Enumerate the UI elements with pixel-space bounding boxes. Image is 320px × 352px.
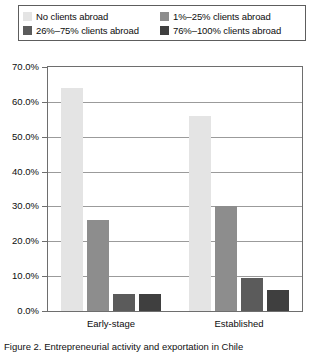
legend-entry-no-clients-abroad: No clients abroad — [23, 11, 160, 22]
bar-established-series-1 — [215, 206, 237, 311]
bar-established-series-3 — [267, 290, 289, 311]
x-category-label-1: Established — [175, 318, 303, 329]
y-tick-label-50: 50.0% — [0, 132, 39, 142]
bar-early-stage-series-3 — [139, 294, 161, 311]
legend-label-2: 26%–75% clients abroad — [36, 25, 139, 36]
x-category-label-0: Early-stage — [47, 318, 175, 329]
bar-early-stage-series-2 — [113, 294, 135, 311]
legend-label-1: 1%–25% clients abroad — [173, 11, 271, 22]
legend-label-0: No clients abroad — [36, 11, 108, 22]
legend-row-2: 26%–75% clients abroad 76%–100% clients … — [23, 23, 301, 37]
y-tick-label-30: 30.0% — [0, 201, 39, 211]
bar-established-series-0 — [189, 116, 211, 311]
legend-entry-76-100-clients-abroad: 76%–100% clients abroad — [160, 25, 281, 36]
bar-early-stage-series-1 — [87, 220, 109, 311]
legend-row-1: No clients abroad 1%–25% clients abroad — [23, 9, 301, 23]
figure-caption: Figure 2. Entrepreneurial activity and e… — [4, 341, 320, 352]
legend-entry-26-75-clients-abroad: 26%–75% clients abroad — [23, 25, 160, 36]
legend-swatch-icon-1 — [160, 12, 169, 21]
y-tick-label-10: 10.0% — [0, 271, 39, 281]
chart-legend: No clients abroad 1%–25% clients abroad … — [18, 5, 306, 41]
y-tick-label-40: 40.0% — [0, 167, 39, 177]
bar-early-stage-series-0 — [61, 88, 83, 311]
bar-chart: 0.0%10.0%20.0%30.0%40.0%50.0%60.0%70.0% … — [0, 44, 320, 329]
bars-layer — [47, 66, 303, 312]
y-tick-label-70: 70.0% — [0, 62, 39, 72]
bar-established-series-2 — [241, 278, 263, 311]
legend-swatch-icon-2 — [23, 26, 32, 35]
y-tick-label-20: 20.0% — [0, 236, 39, 246]
legend-label-3: 76%–100% clients abroad — [173, 25, 281, 36]
legend-swatch-icon-3 — [160, 26, 169, 35]
legend-entry-1-25-clients-abroad: 1%–25% clients abroad — [160, 11, 271, 22]
y-tick-label-0: 0.0% — [0, 306, 39, 316]
legend-swatch-icon-0 — [23, 12, 32, 21]
y-tick-label-60: 60.0% — [0, 97, 39, 107]
